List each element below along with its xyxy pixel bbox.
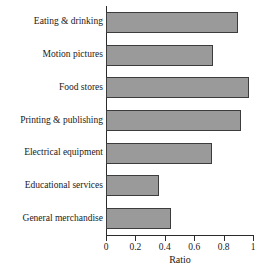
category-label: Food stores: [3, 82, 103, 93]
x-tick-label: 1: [238, 242, 262, 253]
x-tick-mark: [224, 236, 225, 241]
x-tick-mark: [135, 236, 136, 241]
bar: [106, 110, 241, 131]
bar-row: [106, 12, 253, 33]
x-tick-mark: [165, 236, 166, 241]
bar-row: [106, 77, 253, 98]
category-label: Electrical equipment: [3, 147, 103, 158]
x-tick-mark: [106, 236, 107, 241]
plot-area: [106, 6, 253, 235]
bar: [106, 45, 213, 66]
x-tick-label: 0.6: [179, 242, 209, 253]
x-tick-label: 0.2: [120, 242, 150, 253]
bar: [106, 175, 159, 196]
category-axis-labels: Eating & drinkingMotion picturesFood sto…: [0, 0, 103, 236]
x-tick-mark: [253, 236, 254, 241]
x-tick-mark: [194, 236, 195, 241]
category-label: Educational services: [3, 180, 103, 191]
category-label: General merchandise: [3, 213, 103, 224]
bar-row: [106, 110, 253, 131]
category-label: Eating & drinking: [3, 16, 103, 27]
bar-row: [106, 45, 253, 66]
x-axis-title: Ratio: [106, 254, 254, 266]
bar-row: [106, 143, 253, 164]
x-tick-label: 0.8: [209, 242, 239, 253]
bar: [106, 77, 249, 98]
category-label: Motion pictures: [3, 49, 103, 60]
x-tick-label: 0.4: [150, 242, 180, 253]
bar-row: [106, 208, 253, 229]
bar: [106, 208, 171, 229]
bar-chart: Eating & drinkingMotion picturesFood sto…: [0, 0, 262, 273]
bar: [106, 143, 212, 164]
bar: [106, 12, 238, 33]
bar-row: [106, 175, 253, 196]
x-axis-spine: [106, 235, 254, 236]
category-label: Printing & publishing: [3, 115, 103, 126]
x-tick-label: 0: [91, 242, 121, 253]
